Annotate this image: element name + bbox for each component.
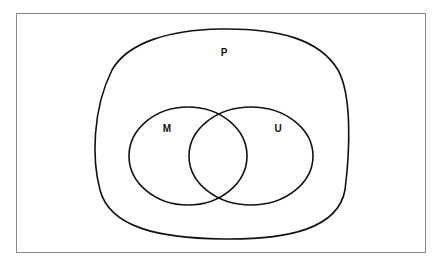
label-m: M	[163, 123, 171, 134]
set-p-outline	[95, 29, 349, 239]
set-u-circle	[189, 107, 313, 205]
label-p: P	[221, 47, 228, 58]
set-m-circle	[129, 107, 247, 205]
label-u: U	[274, 123, 281, 134]
venn-diagram: P M U	[0, 0, 440, 267]
